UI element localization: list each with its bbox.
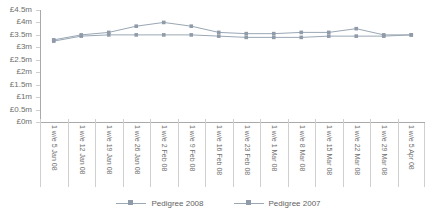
x-axis-tick-mark [260,119,261,123]
x-axis-tick-label: 1 w/e 16 Feb 08 [215,125,223,175]
series-marker [134,33,138,37]
x-axis-tick-mark [95,119,96,123]
series-marker [134,24,138,28]
y-axis-tick-label: £4m [16,18,32,26]
series-marker [409,33,413,37]
legend-swatch-icon [116,199,146,207]
x-axis-tick-mark [343,119,344,123]
x-axis-tick-mark [40,119,41,123]
x-axis-tick-label: 1 w/e 22 Mar 08 [353,125,361,175]
series-group [52,33,413,43]
x-axis-tick-mark [370,119,371,123]
y-axis-tick-label: £2.5m [10,56,32,64]
x-axis-category: 1 w/e 12 Jan 08 [68,123,96,187]
x-axis-tick-label: 1 w/e 12 Jan 08 [78,125,86,174]
x-axis-category: 1 w/e 19 Jan 08 [95,123,123,187]
series-marker [189,24,193,28]
x-axis-tick-mark [123,119,124,123]
series-marker [382,33,386,37]
legend-swatch-icon [234,199,264,207]
x-axis-tick-label: 1 w/e 26 Jan 08 [133,125,141,174]
x-axis-category: 1 w/e 23 Feb 08 [233,123,261,187]
series-group [52,21,413,42]
x-axis-tick-label: 1 w/e 29 Mar 08 [380,125,388,175]
series-marker [354,34,358,38]
x-axis-category: 1 w/e 8 Mar 08 [288,123,316,187]
x-axis-tick-mark [288,119,289,123]
y-axis-tick-label: £0m [16,118,32,126]
chart-legend: Pedigree 2008 Pedigree 2007 [0,193,437,213]
x-axis-category: 1 w/e 26 Jan 08 [123,123,151,187]
x-axis-category: 1 w/e 5 Jan 08 [40,123,68,187]
x-axis-tick-label: 1 w/e 5 Jan 08 [50,125,58,171]
y-axis-tick-label: £4.5m [10,6,32,14]
x-axis: 1 w/e 5 Jan 081 w/e 12 Jan 081 w/e 19 Ja… [40,123,425,187]
y-axis-tick-label: £3m [16,43,32,51]
series-marker [162,33,166,37]
x-axis-tick-mark [315,119,316,123]
x-axis-tick-label: 1 w/e 2 Feb 08 [160,125,168,171]
x-axis-tick-label: 1 w/e 8 Mar 08 [298,125,306,171]
x-axis-category: 1 w/e 16 Feb 08 [205,123,233,187]
legend-item-label: Pedigree 2008 [151,199,203,208]
series-marker [52,38,56,42]
x-axis-category: 1 w/e 22 Mar 08 [343,123,371,187]
series-marker [272,36,276,40]
line-chart: £0m£0.5m£1m£1.5m£2m£2.5m£3m£3.5m£4m£4.5m… [0,0,437,219]
series-marker [217,34,221,38]
series-marker [272,32,276,36]
series-marker [79,33,83,37]
series-marker [107,31,111,35]
x-axis-tick-mark [178,119,179,123]
series-marker [162,21,166,25]
series-marker [189,33,193,37]
x-axis-category: 1 w/e 9 Feb 08 [178,123,206,187]
y-axis: £0m£0.5m£1m£1.5m£2m£2.5m£3m£3.5m£4m£4.5m [0,0,36,130]
x-axis-tick-mark [150,119,151,123]
series-marker [217,31,221,35]
series-marker [299,31,303,35]
y-axis-tick-label: £1.5m [10,81,32,89]
x-axis-tick-mark [233,119,234,123]
y-axis-tick-label: £0.5m [10,106,32,114]
x-axis-category: 1 w/e 5 Apr 08 [398,123,426,187]
series-marker [327,31,331,35]
x-axis-tick-label: 1 w/e 15 Mar 08 [325,125,333,175]
series-marker [244,32,248,36]
series-svg [40,10,425,122]
x-axis-tick-label: 1 w/e 1 Mar 08 [270,125,278,171]
y-axis-tick-label: £3.5m [10,31,32,39]
x-axis-tick-label: 1 w/e 23 Feb 08 [243,125,251,175]
legend-item-series-2[interactable]: Pedigree 2007 [234,199,321,208]
series-marker [244,36,248,40]
x-axis-tick-label: 1 w/e 9 Feb 08 [188,125,196,171]
x-axis-tick-mark [398,119,399,123]
y-axis-tick-label: £1m [16,93,32,101]
series-marker [354,27,358,31]
y-axis-tick-label: £2m [16,68,32,76]
x-axis-category: 1 w/e 29 Mar 08 [370,123,398,187]
x-axis-tick-mark [68,119,69,123]
x-axis-category: 1 w/e 2 Feb 08 [150,123,178,187]
x-axis-tick-mark [205,119,206,123]
plot-area [40,10,425,122]
series-marker [327,34,331,38]
legend-item-series-1[interactable]: Pedigree 2008 [116,199,203,208]
x-axis-tick-label: 1 w/e 19 Jan 08 [105,125,113,174]
legend-item-label: Pedigree 2007 [269,199,321,208]
series-marker [299,36,303,40]
x-axis-tick-label: 1 w/e 5 Apr 08 [407,125,415,170]
x-axis-category: 1 w/e 1 Mar 08 [260,123,288,187]
x-axis-category: 1 w/e 15 Mar 08 [315,123,343,187]
